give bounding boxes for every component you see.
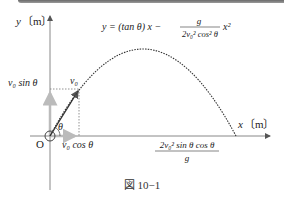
svg-text:x²: x² <box>222 21 231 32</box>
angle-label: θ <box>58 121 63 132</box>
svg-text:2v₀² cos² θ: 2v₀² cos² θ <box>182 29 218 39</box>
range-label: 2v₀² sin θ cos θ g <box>155 140 219 163</box>
figure-caption: 図 10−1 <box>0 176 284 192</box>
svg-text:2v₀² sin θ cos θ: 2v₀² sin θ cos θ <box>160 140 215 150</box>
x-axis-label: x〔m〕 <box>237 118 274 130</box>
vy-component-label: v₀ sin θ <box>8 77 38 88</box>
trajectory-equation: y = (tan θ) x − g 2v₀² cos² θ x² <box>101 16 231 39</box>
svg-text:g: g <box>197 16 202 26</box>
velocity-label: v₀ <box>70 75 78 86</box>
trajectory-curve <box>50 49 236 136</box>
projectile-diagram: y〔m〕 x〔m〕 O v₀ v₀ sin θ v₀ cos θ θ y = (… <box>0 0 284 202</box>
origin-label: O <box>36 138 44 150</box>
svg-text:g: g <box>185 153 190 163</box>
vx-component-label: v₀ cos θ <box>62 139 93 150</box>
y-axis-label: y〔m〕 <box>15 15 52 27</box>
svg-text:y = (tan θ) x −: y = (tan θ) x − <box>101 21 161 33</box>
velocity-vector-arrow <box>50 91 78 136</box>
